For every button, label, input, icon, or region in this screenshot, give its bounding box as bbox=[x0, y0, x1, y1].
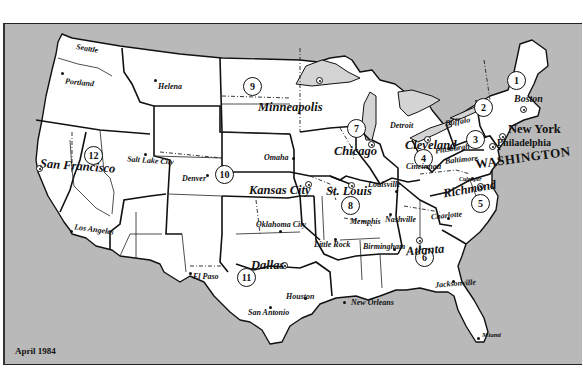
city-label-san-antonio[interactable]: San Antonio bbox=[248, 309, 289, 317]
city-label-memphis[interactable]: Memphis bbox=[350, 218, 381, 226]
bank-marker-philadelphia bbox=[489, 143, 496, 150]
district-2-marker[interactable]: 2 bbox=[474, 98, 493, 117]
city-label-dallas[interactable]: Dallas bbox=[251, 259, 284, 272]
city-label-atlanta[interactable]: Atlanta bbox=[406, 243, 445, 258]
branch-dot-denver bbox=[206, 174, 209, 177]
district-10-marker[interactable]: 10 bbox=[215, 165, 234, 184]
city-label-louisville[interactable]: Louisville bbox=[368, 181, 400, 189]
city-label-miami[interactable]: Miami bbox=[482, 332, 501, 339]
city-label-detroit[interactable]: Detroit bbox=[390, 122, 413, 130]
map-date-label: April 1984 bbox=[15, 346, 56, 356]
branch-dot-new-orleans bbox=[343, 301, 346, 304]
city-label-houston[interactable]: Houston bbox=[286, 293, 314, 301]
district-1-marker[interactable]: 1 bbox=[507, 71, 526, 90]
city-label-oklahoma-city[interactable]: Oklahoma City bbox=[256, 221, 306, 229]
branch-dot-portland bbox=[61, 72, 64, 75]
city-label-new-york[interactable]: New York bbox=[508, 123, 561, 136]
city-label-chicago[interactable]: Chicago bbox=[334, 145, 377, 158]
bank-marker-boston bbox=[520, 106, 527, 113]
branch-dot-miami bbox=[477, 337, 480, 340]
district-9-marker[interactable]: 9 bbox=[243, 77, 262, 96]
city-label-nashville[interactable]: Nashville bbox=[385, 216, 416, 224]
city-label-helena[interactable]: Helena bbox=[158, 83, 182, 91]
branch-dot-omaha bbox=[292, 157, 295, 160]
branch-dot-oklahoma-city bbox=[279, 230, 282, 233]
branch-dot-los-angeles bbox=[70, 230, 73, 233]
city-label-culpeper[interactable]: Culpeper bbox=[459, 176, 482, 182]
bank-marker-minneapolis bbox=[316, 77, 323, 84]
city-label-denver[interactable]: Denver bbox=[182, 175, 206, 183]
city-label-minneapolis[interactable]: Minneapolis bbox=[258, 101, 323, 114]
city-label-omaha[interactable]: Omaha bbox=[264, 154, 288, 162]
branch-dot-helena bbox=[154, 79, 157, 82]
district-7-marker[interactable]: 7 bbox=[347, 119, 366, 138]
city-label-cincinnati[interactable]: Cincinnati bbox=[406, 163, 441, 171]
city-label-el-paso[interactable]: El Paso bbox=[193, 273, 219, 281]
city-label-kansas-city[interactable]: Kansas City bbox=[249, 184, 310, 197]
district-8-marker[interactable]: 8 bbox=[341, 196, 360, 215]
branch-dot-louisville bbox=[395, 190, 398, 193]
city-label-st-louis[interactable]: St. Louis bbox=[326, 185, 372, 198]
city-label-new-orleans[interactable]: New Orleans bbox=[351, 299, 394, 307]
branch-dot-el-paso bbox=[189, 272, 192, 275]
city-label-birmingham[interactable]: Birmingham bbox=[363, 243, 405, 251]
city-label-little-rock[interactable]: Little Rock bbox=[314, 241, 350, 249]
district-5-marker[interactable]: 5 bbox=[471, 194, 490, 213]
city-label-boston[interactable]: Boston bbox=[514, 94, 543, 104]
